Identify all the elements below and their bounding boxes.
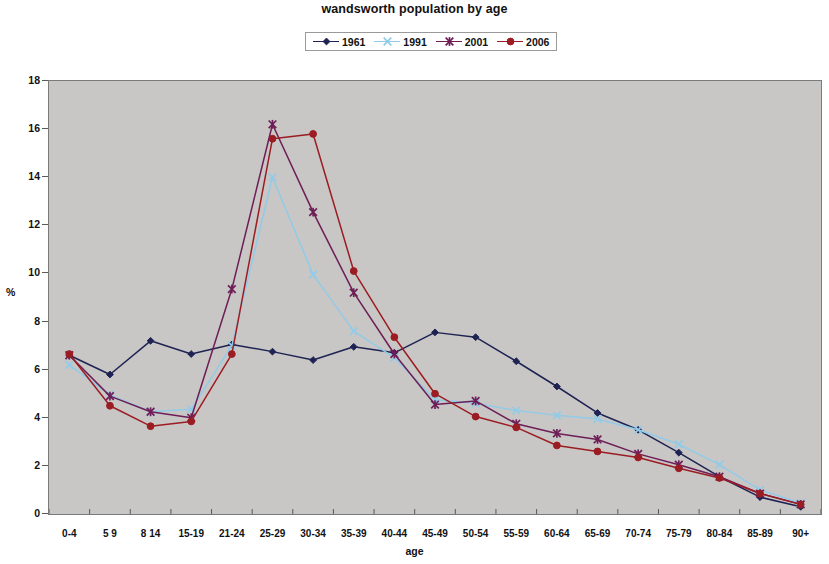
- legend-item-2001: 2001: [436, 33, 488, 50]
- x-axis-tick-label: 5 9: [103, 528, 117, 539]
- legend-item-2006: 2006: [497, 33, 549, 50]
- x-axis-tick-label: 65-69: [585, 528, 611, 539]
- x-axis-tick-label: 0-4: [62, 528, 76, 539]
- x-axis-tick-label: 50-54: [463, 528, 489, 539]
- x-axis-tick-label: 85-89: [747, 528, 773, 539]
- x-axis-tick-label: 70-74: [625, 528, 651, 539]
- legend-marker-asterisk-icon: [436, 36, 462, 48]
- x-axis-tick-label: 30-34: [300, 528, 326, 539]
- series-1991: [66, 173, 805, 507]
- legend-marker-diamond-icon: [313, 36, 339, 48]
- x-axis-tick-label: 8 14: [141, 528, 160, 539]
- x-axis-tick-label: 25-29: [260, 528, 286, 539]
- legend-item-1961: 1961: [313, 33, 365, 50]
- x-axis-tick-label: 80-84: [707, 528, 733, 539]
- chart-container: wandsworth population by age 19611991200…: [0, 0, 829, 564]
- x-axis-tick-label: 21-24: [219, 528, 245, 539]
- series-2001: [66, 120, 805, 509]
- y-axis-tick-label: 10: [6, 267, 40, 277]
- legend-item-1991: 1991: [374, 33, 426, 50]
- y-axis-tick-label: 16: [6, 123, 40, 133]
- legend-marker-x-icon: [374, 36, 400, 48]
- legend-label: 1961: [342, 36, 365, 48]
- y-axis-tick-label: 12: [6, 219, 40, 229]
- chart-title: wandsworth population by age: [0, 2, 829, 16]
- chart-legend: 1961199120012006: [305, 32, 557, 51]
- legend-label: 2006: [526, 36, 549, 48]
- y-axis-tick-label: 2: [6, 460, 40, 470]
- legend-marker-circle-icon: [497, 36, 523, 48]
- y-axis-tick-label: 14: [6, 171, 40, 181]
- x-axis-tick-label: 75-79: [666, 528, 692, 539]
- series-1961: [66, 329, 804, 510]
- x-axis-tick-label: 35-39: [341, 528, 367, 539]
- plot-area: [48, 80, 822, 515]
- x-axis-tick-label: 45-49: [422, 528, 448, 539]
- legend-label: 2001: [465, 36, 488, 48]
- x-axis-tick-label: 55-59: [503, 528, 529, 539]
- x-axis-tick-label: 15-19: [178, 528, 204, 539]
- x-axis-tick-label: 90+: [792, 528, 809, 539]
- x-axis-tick-label: 40-44: [382, 528, 408, 539]
- legend-label: 1991: [403, 36, 426, 48]
- y-axis-tick-label: 18: [6, 75, 40, 85]
- y-axis-label: %: [6, 286, 15, 298]
- y-axis-tick-label: 4: [6, 412, 40, 422]
- y-axis-tick-label: 6: [6, 364, 40, 374]
- y-axis-tick-label: 0: [6, 508, 40, 518]
- y-axis-tick-label: 8: [6, 316, 40, 326]
- plot-svg: [49, 81, 821, 514]
- x-axis-tick-label: 60-64: [544, 528, 570, 539]
- x-axis-label: age: [0, 545, 829, 557]
